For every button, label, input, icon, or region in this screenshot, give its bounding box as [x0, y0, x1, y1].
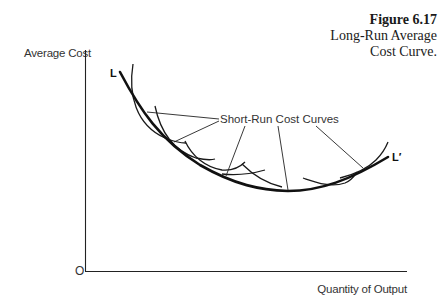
cost-curve-diagram: Short-Run Cost Curves L L′ — [0, 0, 445, 296]
short-run-curve-3 — [185, 141, 245, 170]
short-run-annotation: Short-Run Cost Curves — [220, 113, 339, 125]
short-run-curves — [132, 64, 388, 187]
long-run-end-label: L′ — [392, 151, 402, 163]
long-run-start-label: L — [110, 67, 117, 79]
leader-line-2 — [174, 121, 219, 142]
leader-line-5 — [316, 126, 363, 168]
short-run-curve-4 — [242, 164, 282, 187]
leader-line-4 — [278, 126, 288, 190]
